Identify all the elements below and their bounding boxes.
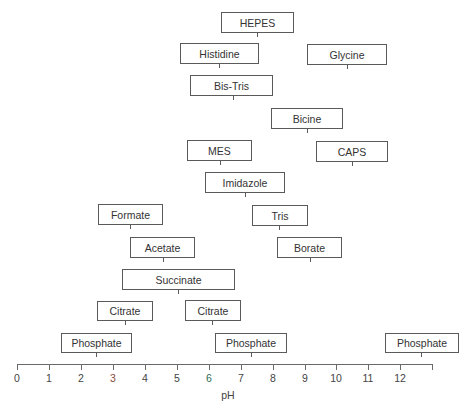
tick-label-1: 1 (39, 372, 59, 384)
buffer-label: CAPS (338, 146, 367, 158)
buffer-label: Glycine (329, 49, 364, 61)
buffer-label: Succinate (155, 274, 201, 286)
buffer-box-bicine: Bicine (271, 108, 343, 129)
buffer-box-formate: Formate (98, 204, 163, 225)
pka-tick (251, 352, 252, 357)
pka-tick (163, 257, 164, 262)
buffer-label: Phosphate (226, 337, 276, 349)
axis-tick (177, 364, 178, 370)
buffer-label: Bis-Tris (214, 80, 249, 92)
buffer-label: MES (208, 145, 231, 157)
axis-tick (209, 364, 210, 370)
buffer-label: Phosphate (71, 337, 121, 349)
buffer-box-acetate: Acetate (130, 237, 195, 258)
pka-tick (178, 289, 179, 294)
pka-tick (421, 352, 422, 357)
axis-tick (432, 364, 433, 370)
buffer-box-histidine: Histidine (180, 43, 259, 64)
tick-label-3: 3 (103, 372, 123, 384)
tick-label-8: 8 (263, 372, 283, 384)
axis-tick (113, 364, 114, 370)
tick-label-11: 11 (358, 372, 378, 384)
buffer-box-tris: Tris (252, 205, 308, 226)
buffer-box-mes: MES (187, 140, 252, 161)
axis-tick (400, 364, 401, 370)
axis-tick (17, 364, 18, 370)
buffer-label: HEPES (240, 17, 276, 29)
buffer-box-phosphate-3: Phosphate (385, 333, 459, 353)
pka-tick (307, 128, 308, 133)
tick-label-2: 2 (71, 372, 91, 384)
buffer-label: Bicine (293, 113, 322, 125)
axis-tick (305, 364, 306, 370)
tick-label-9: 9 (295, 372, 315, 384)
tick-label-0: 0 (7, 372, 27, 384)
pka-tick (233, 95, 234, 100)
buffer-label: Histidine (199, 48, 239, 60)
tick-label-7: 7 (231, 372, 251, 384)
pka-tick (245, 192, 246, 197)
buffer-label: Acetate (145, 242, 181, 254)
axis-tick (273, 364, 274, 370)
pka-tick (212, 320, 213, 325)
buffer-label: Tris (271, 210, 288, 222)
buffer-box-phosphate-1: Phosphate (61, 333, 132, 353)
axis-tick (241, 364, 242, 370)
buffer-label: Citrate (110, 305, 141, 317)
pka-tick (130, 224, 131, 229)
buffer-box-phosphate-2: Phosphate (215, 333, 287, 353)
buffer-label: Formate (111, 209, 150, 221)
pka-tick (347, 64, 348, 69)
buffer-label: Phosphate (397, 337, 447, 349)
pka-tick (310, 257, 311, 262)
ph-axis-line (17, 364, 433, 365)
axis-tick (336, 364, 337, 370)
axis-tick (145, 364, 146, 370)
pka-tick (96, 352, 97, 357)
buffer-label: Citrate (198, 305, 229, 317)
x-axis-title: pH (218, 389, 238, 401)
tick-label-12: 12 (390, 372, 410, 384)
pka-tick (257, 32, 258, 37)
pka-tick (279, 225, 280, 230)
tick-label-6: 6 (199, 372, 219, 384)
buffer-box-glycine: Glycine (307, 44, 387, 65)
pka-tick (220, 160, 221, 165)
tick-label-4: 4 (135, 372, 155, 384)
buffer-label: Imidazole (223, 177, 268, 189)
tick-label-5: 5 (167, 372, 187, 384)
buffer-box-caps: CAPS (316, 141, 388, 162)
buffer-box-bis-tris: Bis-Tris (190, 75, 273, 96)
buffer-box-hepes: HEPES (221, 12, 294, 33)
buffer-box-borate: Borate (277, 237, 342, 258)
axis-tick (368, 364, 369, 370)
tick-label-10: 10 (326, 372, 346, 384)
pka-tick (219, 63, 220, 68)
pka-tick (352, 161, 353, 166)
axis-tick (81, 364, 82, 370)
buffer-box-citrate-1: Citrate (97, 301, 153, 321)
buffer-box-citrate-2: Citrate (185, 300, 241, 321)
buffer-label: Borate (294, 242, 325, 254)
axis-tick (49, 364, 50, 370)
pka-tick (125, 320, 126, 325)
buffer-box-imidazole: Imidazole (205, 172, 285, 193)
buffer-box-succinate: Succinate (122, 269, 235, 290)
